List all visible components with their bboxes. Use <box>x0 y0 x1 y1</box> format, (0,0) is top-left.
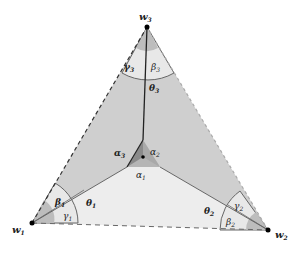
label-w2: w2 <box>275 229 288 241</box>
vertex-w3-dot <box>145 25 150 30</box>
vertex-w1-dot <box>30 221 35 226</box>
label-w3: w3 <box>139 11 152 23</box>
simplex-diagram: w3 w1 w2 γ3 β3 θ3 α3 α2 α1 β1 γ1 θ1 θ2 γ… <box>0 0 301 253</box>
center-dot <box>141 155 145 159</box>
vertex-w2-dot <box>266 228 271 233</box>
label-w1: w1 <box>12 224 25 236</box>
